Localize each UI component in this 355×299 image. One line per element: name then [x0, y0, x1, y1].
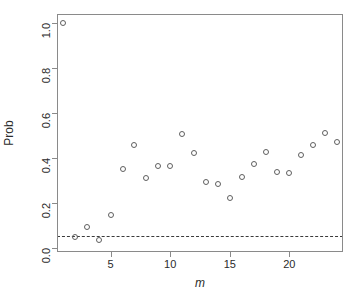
y-axis-tick-label-wrap: 0.8	[0, 68, 50, 80]
y-axis-tick	[52, 68, 57, 69]
y-axis-tick	[52, 158, 57, 159]
y-axis-tick-label: 0.4	[40, 158, 52, 173]
x-axis-tick-label: 15	[224, 258, 236, 270]
x-axis-tick	[111, 252, 112, 257]
y-axis-tick-label-wrap: 0.2	[0, 203, 50, 215]
y-axis-title: Prob	[2, 120, 16, 145]
x-axis-tick	[170, 252, 171, 257]
y-axis-tick-label-wrap: 0.4	[0, 158, 50, 170]
x-axis-tick-label: 10	[164, 258, 176, 270]
y-axis-tick	[52, 203, 57, 204]
y-axis-tick-label-wrap: 1.0	[0, 23, 50, 35]
scatter-plot-figure: 0.00.20.40.60.81.0 5101520 Prob m	[0, 0, 355, 299]
y-axis-tick-label: 1.0	[40, 23, 52, 38]
plot-frame-border	[57, 14, 343, 252]
x-axis-tick-label: 20	[283, 258, 295, 270]
x-axis-tick	[230, 252, 231, 257]
x-axis-title: m	[195, 276, 205, 290]
y-axis-tick	[52, 23, 57, 24]
y-axis-tick	[52, 113, 57, 114]
y-axis-tick-label: 0.6	[40, 113, 52, 128]
y-axis-tick-label: 0.0	[40, 248, 52, 263]
y-axis-tick	[52, 248, 57, 249]
y-axis-tick-label: 0.8	[40, 68, 52, 83]
x-axis-tick-label: 5	[108, 258, 114, 270]
y-axis-tick-label: 0.2	[40, 203, 52, 218]
y-axis-tick-label-wrap: 0.0	[0, 248, 50, 260]
x-axis-tick	[289, 252, 290, 257]
